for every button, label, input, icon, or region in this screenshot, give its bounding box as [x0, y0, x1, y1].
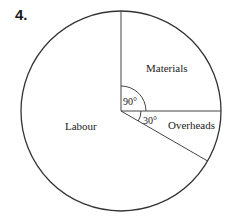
slice-label-materials: Materials [146, 62, 188, 74]
pie-chart: Materials Overheads Labour 90° 30° [0, 0, 233, 223]
angle-arc-30 [138, 111, 141, 121]
slice-label-overheads: Overheads [168, 119, 215, 131]
angle-label-90: 90° [123, 96, 137, 107]
angle-label-30: 30° [143, 115, 157, 126]
slice-label-labour: Labour [65, 120, 97, 132]
